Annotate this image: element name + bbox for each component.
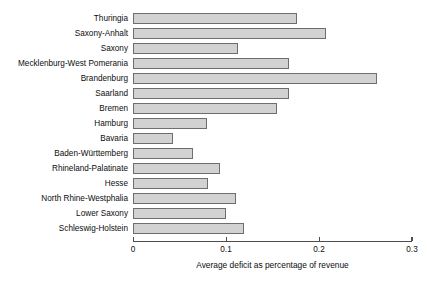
bar-row: Bavaria — [0, 131, 427, 146]
bar — [133, 148, 193, 159]
bar-row: Thuringia — [0, 11, 427, 26]
x-axis-tick-label: 0.1 — [211, 245, 241, 254]
x-axis-tick — [319, 237, 320, 241]
category-label: Bremen — [0, 101, 128, 116]
category-label: Rhineland-Palatinate — [0, 161, 128, 176]
bar-row: North Rhine-Westphalia — [0, 191, 427, 206]
x-axis-tick-label: 0.2 — [304, 245, 334, 254]
bar-chart: ThuringiaSaxony-AnhaltSaxonyMecklenburg-… — [0, 0, 427, 284]
category-label: Hamburg — [0, 116, 128, 131]
category-label: Schleswig-Holstein — [0, 221, 128, 236]
x-axis-title: Average deficit as percentage of revenue — [133, 260, 412, 270]
x-axis-tick — [226, 237, 227, 241]
bar — [133, 88, 289, 99]
bar — [133, 13, 297, 24]
category-label: Saxony — [0, 41, 128, 56]
category-label: Hesse — [0, 176, 128, 191]
category-label: Thuringia — [0, 11, 128, 26]
category-label: North Rhine-Westphalia — [0, 191, 128, 206]
category-label: Baden-Württemberg — [0, 146, 128, 161]
category-label: Saxony-Anhalt — [0, 26, 128, 41]
category-label: Mecklenburg-West Pomerania — [0, 56, 128, 71]
plot-area: ThuringiaSaxony-AnhaltSaxonyMecklenburg-… — [0, 0, 427, 240]
bar-row: Saarland — [0, 86, 427, 101]
bar — [133, 133, 173, 144]
bar-row: Rhineland-Palatinate — [0, 161, 427, 176]
category-label: Saarland — [0, 86, 128, 101]
bar — [133, 178, 208, 189]
bar-row: Bremen — [0, 101, 427, 116]
x-axis-line — [133, 241, 412, 242]
bar-row: Mecklenburg-West Pomerania — [0, 56, 427, 71]
x-axis-tick-label: 0 — [118, 245, 148, 254]
bar — [133, 118, 207, 129]
bar — [133, 28, 326, 39]
x-axis-tick — [412, 237, 413, 241]
bar — [133, 223, 244, 234]
category-label: Bavaria — [0, 131, 128, 146]
x-axis-tick-label: 0.3 — [397, 245, 427, 254]
bar — [133, 208, 226, 219]
bar-row: Saxony-Anhalt — [0, 26, 427, 41]
category-label: Brandenburg — [0, 71, 128, 86]
bar — [133, 58, 289, 69]
bar-row: Lower Saxony — [0, 206, 427, 221]
bar-row: Hamburg — [0, 116, 427, 131]
bar — [133, 193, 236, 204]
bar-row: Saxony — [0, 41, 427, 56]
bar-row: Hesse — [0, 176, 427, 191]
bar-row: Baden-Württemberg — [0, 146, 427, 161]
category-label: Lower Saxony — [0, 206, 128, 221]
x-axis-tick — [133, 237, 134, 241]
bar — [133, 43, 238, 54]
bar — [133, 103, 277, 114]
bar-row: Brandenburg — [0, 71, 427, 86]
bar-row: Schleswig-Holstein — [0, 221, 427, 236]
bar — [133, 73, 377, 84]
bar — [133, 163, 220, 174]
